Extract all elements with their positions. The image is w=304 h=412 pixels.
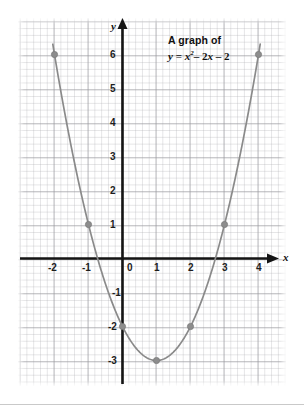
graph-caption: A graph of y = x2– 2x – 2 [168,34,229,64]
caption-var-y: y [168,50,173,62]
data-point [119,323,125,329]
caption-term-2x: – 2 [194,50,208,62]
x-tick-label-2: 2 [188,263,194,273]
data-point [153,357,159,363]
x-tick-label--1: -1 [82,263,91,273]
graph-figure: -2 -1 0 1 2 3 4 6 5 4 3 2 1 -1 -2 -3 y x… [0,0,304,412]
data-point [85,221,91,227]
y-tick-label-5: 5 [110,84,116,94]
caption-var-x2: x [207,50,213,62]
y-tick-label-4: 4 [110,118,116,128]
y-tick-label-6: 6 [110,50,116,60]
y-tick-label-3: 3 [110,152,116,162]
y-tick-label--1: -1 [112,288,121,298]
x-tick-label-0: 0 [127,263,133,273]
caption-line-2: y = x2– 2x – 2 [168,49,229,63]
x-axis-label: x [283,252,289,263]
y-tick-label--3: -3 [108,356,117,366]
data-point [221,221,227,227]
data-point [187,323,193,329]
y-tick-label-2: 2 [110,186,116,196]
plot-area [0,0,304,412]
x-axis [20,254,279,264]
x-tick-label-4: 4 [256,263,262,273]
caption-equals: = [176,50,182,62]
y-axis-label: y [111,21,116,32]
x-tick-label-3: 3 [222,263,228,273]
marked-points-group [51,51,261,363]
x-tick-label-1: 1 [154,263,160,273]
caption-term-const: – 2 [216,50,230,62]
data-point [51,51,57,57]
y-tick-label--2: -2 [108,322,117,332]
x-tick-label--2: -2 [48,263,57,273]
caption-line-1: A graph of [168,34,229,47]
data-point [255,51,261,57]
y-tick-label-1: 1 [110,220,116,230]
bottom-divider [0,404,304,405]
parabola-curve-exact [53,44,260,360]
